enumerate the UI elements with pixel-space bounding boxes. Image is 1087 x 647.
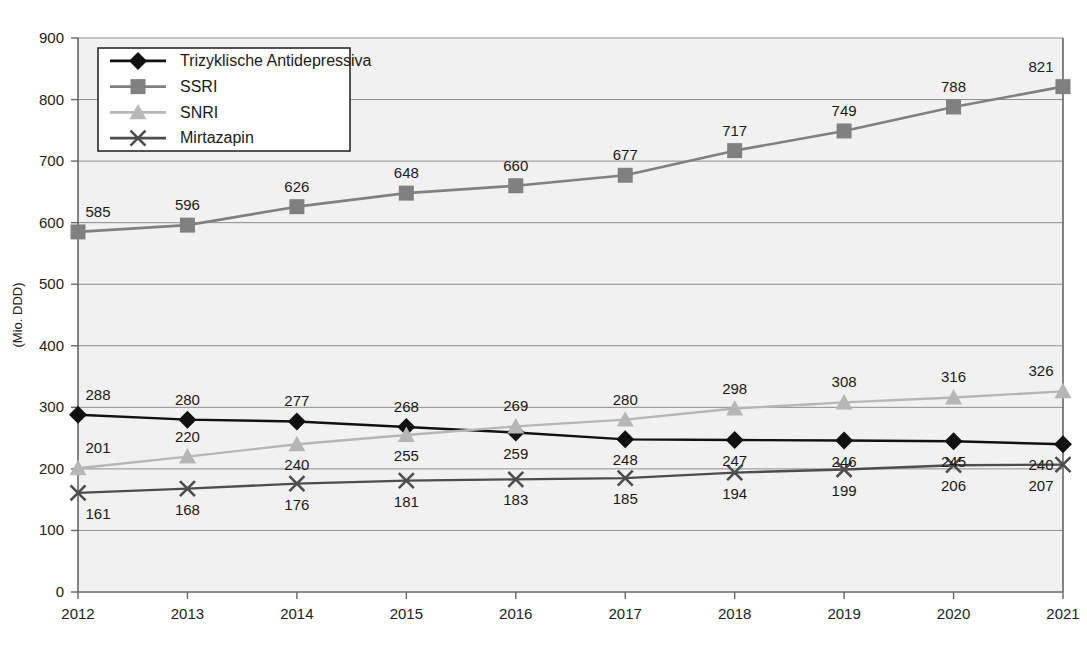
data-label: 316 xyxy=(941,368,966,385)
y-tick-label: 900 xyxy=(39,29,64,46)
x-tick-label: 2015 xyxy=(390,605,423,622)
data-point-marker-square xyxy=(946,99,961,114)
y-axis-ticks: 0100200300400500600700800900 xyxy=(39,29,78,600)
x-tick-label: 2020 xyxy=(937,605,970,622)
data-label: 176 xyxy=(284,496,309,513)
data-label: 280 xyxy=(175,391,200,408)
legend-item-mirtazapin[interactable]: Mirtazapin xyxy=(110,129,254,146)
legend-label: Trizyklische Antidepressiva xyxy=(180,52,372,69)
x-tick-label: 2012 xyxy=(61,605,94,622)
data-label: 240 xyxy=(1028,456,1053,473)
legend-label: SNRI xyxy=(180,104,218,121)
data-label: 788 xyxy=(941,78,966,95)
data-point-marker-square xyxy=(71,224,86,239)
data-label: 181 xyxy=(394,493,419,510)
data-label: 288 xyxy=(85,386,110,403)
line-chart: 0100200300400500600700800900 20122013201… xyxy=(0,0,1087,647)
data-point-marker-square xyxy=(399,186,414,201)
data-label: 749 xyxy=(832,102,857,119)
data-label: 161 xyxy=(85,505,110,522)
data-label: 201 xyxy=(85,439,110,456)
data-label: 596 xyxy=(175,196,200,213)
x-tick-label: 2014 xyxy=(280,605,313,622)
data-label: 298 xyxy=(722,380,747,397)
data-label: 240 xyxy=(284,456,309,473)
data-label: 626 xyxy=(284,178,309,195)
chart-container: 0100200300400500600700800900 20122013201… xyxy=(0,0,1087,647)
data-label: 247 xyxy=(722,452,747,469)
data-point-marker-square xyxy=(508,178,523,193)
y-tick-label: 500 xyxy=(39,275,64,292)
data-label: 255 xyxy=(394,447,419,464)
legend-label: SSRI xyxy=(180,78,217,95)
data-label: 207 xyxy=(1028,477,1053,494)
data-label: 677 xyxy=(613,146,638,163)
data-label: 269 xyxy=(503,397,528,414)
y-tick-label: 700 xyxy=(39,152,64,169)
data-label: 308 xyxy=(832,373,857,390)
data-label: 220 xyxy=(175,428,200,445)
data-label: 246 xyxy=(832,453,857,470)
data-label: 168 xyxy=(175,501,200,518)
data-label: 326 xyxy=(1028,362,1053,379)
x-tick-label: 2013 xyxy=(171,605,204,622)
chart-legend[interactable]: Trizyklische AntidepressivaSSRISNRIMirta… xyxy=(98,48,372,151)
data-label: 185 xyxy=(613,490,638,507)
y-tick-label: 0 xyxy=(56,583,64,600)
x-axis-ticks: 2012201320142015201620172018201920202021 xyxy=(61,592,1079,622)
data-point-marker-square xyxy=(1056,79,1071,94)
x-tick-label: 2019 xyxy=(827,605,860,622)
y-tick-label: 100 xyxy=(39,521,64,538)
data-label: 277 xyxy=(284,392,309,409)
data-label: 660 xyxy=(503,157,528,174)
y-axis-title-text: (Mio. DDD) xyxy=(10,283,25,348)
y-tick-label: 300 xyxy=(39,398,64,415)
y-tick-label: 600 xyxy=(39,214,64,231)
x-tick-label: 2017 xyxy=(609,605,642,622)
y-tick-label: 800 xyxy=(39,91,64,108)
data-label: 717 xyxy=(722,122,747,139)
data-point-marker-square xyxy=(837,123,852,138)
data-label: 821 xyxy=(1028,58,1053,75)
data-label: 183 xyxy=(503,491,528,508)
data-point-marker-square xyxy=(727,143,742,158)
y-tick-label: 400 xyxy=(39,337,64,354)
data-label: 268 xyxy=(394,398,419,415)
x-tick-label: 2016 xyxy=(499,605,532,622)
data-point-marker-square xyxy=(618,168,633,183)
data-label: 280 xyxy=(613,391,638,408)
data-label: 199 xyxy=(832,482,857,499)
data-label: 245 xyxy=(941,453,966,470)
data-label: 648 xyxy=(394,164,419,181)
data-label: 194 xyxy=(722,485,747,502)
legend-label: Mirtazapin xyxy=(180,129,254,146)
data-label: 585 xyxy=(85,203,110,220)
y-tick-label: 200 xyxy=(39,460,64,477)
data-label: 206 xyxy=(941,477,966,494)
x-tick-label: 2018 xyxy=(718,605,751,622)
data-label: 259 xyxy=(503,445,528,462)
data-point-marker-square xyxy=(131,79,146,94)
data-label: 248 xyxy=(613,451,638,468)
x-tick-label: 2021 xyxy=(1046,605,1079,622)
y-axis-title: (Mio. DDD) xyxy=(10,283,25,348)
data-point-marker-square xyxy=(289,199,304,214)
data-point-marker-square xyxy=(180,218,195,233)
